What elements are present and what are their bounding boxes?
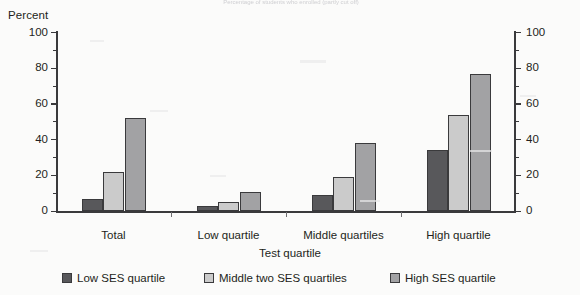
y-axis-label-right: 100 <box>526 26 562 38</box>
chart-legend: Low SES quartileMiddle two SES quartiles… <box>0 272 580 290</box>
y-axis-label-right: 60 <box>526 97 562 109</box>
scan-artifact <box>210 175 226 177</box>
bar <box>448 115 469 211</box>
left-tick-major <box>51 211 56 212</box>
y-axis-label-left: 40 <box>12 133 48 145</box>
scan-artifact <box>470 150 492 152</box>
legend-swatch-icon <box>204 273 214 283</box>
left-tick-minor <box>53 121 56 122</box>
scan-artifact <box>90 40 104 42</box>
legend-swatch-icon <box>390 273 400 283</box>
left-tick-major <box>51 32 56 33</box>
legend-item: High SES quartile <box>390 272 496 284</box>
scan-artifact <box>300 60 326 63</box>
y-axis-label-left: 20 <box>12 168 48 180</box>
right-tick-minor <box>516 50 519 51</box>
scan-artifact <box>520 95 536 97</box>
right-tick-major <box>516 139 521 140</box>
right-tick-major <box>516 175 521 176</box>
left-axis-line <box>56 31 58 213</box>
cut-off-title: Percentage of students who enrolled (par… <box>188 0 394 5</box>
left-tick-minor <box>53 50 56 51</box>
x-axis-category-label: High quartile <box>399 229 519 241</box>
right-tick-minor <box>516 157 519 158</box>
right-tick-major <box>516 32 521 33</box>
left-tick-minor <box>53 86 56 87</box>
bar <box>103 172 124 211</box>
bar <box>312 195 333 211</box>
left-tick-minor <box>53 157 56 158</box>
right-tick-minor <box>516 193 519 194</box>
y-axis-label-right: 0 <box>526 204 562 216</box>
right-tick-minor <box>516 121 519 122</box>
chart-figure: Percentage of students who enrolled (par… <box>0 0 580 295</box>
bar <box>333 177 354 211</box>
x-axis-category-label: Low quartile <box>169 229 289 241</box>
scan-artifact <box>360 200 380 202</box>
bar <box>470 74 491 212</box>
left-tick-major <box>51 175 56 176</box>
y-axis-label-left: 80 <box>12 61 48 73</box>
group-separator-tick <box>401 212 402 217</box>
bar <box>218 202 239 211</box>
legend-item: Low SES quartile <box>62 272 165 284</box>
legend-label: High SES quartile <box>405 272 496 284</box>
left-tick-major <box>51 68 56 69</box>
left-tick-major <box>51 103 56 104</box>
group-separator-tick <box>286 212 287 217</box>
legend-label: Middle two SES quartiles <box>219 272 347 284</box>
legend-swatch-icon <box>62 273 72 283</box>
y-axis-unit-label: Percent <box>8 9 48 21</box>
legend-label: Low SES quartile <box>77 272 165 284</box>
legend-item: Middle two SES quartiles <box>204 272 347 284</box>
left-tick-minor <box>53 193 56 194</box>
bar <box>125 118 146 211</box>
bar <box>82 199 103 212</box>
right-tick-major <box>516 103 521 104</box>
y-axis-label-right: 80 <box>526 61 562 73</box>
bar <box>427 150 448 211</box>
scan-artifact <box>30 250 48 252</box>
scan-artifact <box>150 110 168 112</box>
x-axis-category-label: Middle quartiles <box>284 229 404 241</box>
x-axis-title: Test quartile <box>0 247 580 259</box>
y-axis-label-left: 60 <box>12 97 48 109</box>
y-axis-label-left: 0 <box>12 204 48 216</box>
left-tick-major <box>51 139 56 140</box>
x-axis-category-label: Total <box>54 229 174 241</box>
bar <box>197 206 218 211</box>
plot-area: 002020404060608080100100 <box>56 31 516 213</box>
group-separator-tick <box>171 212 172 217</box>
right-tick-minor <box>516 86 519 87</box>
right-tick-major <box>516 68 521 69</box>
right-tick-major <box>516 211 521 212</box>
y-axis-label-right: 40 <box>526 133 562 145</box>
y-axis-label-left: 100 <box>12 26 48 38</box>
bar <box>240 192 261 212</box>
y-axis-label-right: 20 <box>526 168 562 180</box>
